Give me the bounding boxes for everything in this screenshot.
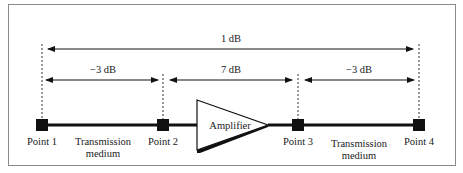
overall-gain-label: 1 dB [221,33,241,44]
segment-2-loss-label: −3 dB [346,64,372,75]
point-3-label: Point 3 [283,136,313,147]
point-4-marker [413,119,425,131]
point-3-marker [292,119,304,131]
amplifier-label: Amplifier [209,120,251,131]
medium-1-label-line2: medium [86,148,120,159]
medium-1-label-line1: Transmission [75,136,132,147]
transmission-diagram: 1 dB −3 dB 7 dB −3 dB Amplifier Point 1 … [0,0,463,173]
amplifier-gain-label: 7 dB [221,64,241,75]
point-2-label: Point 2 [148,136,178,147]
medium-2-label-line2: medium [342,150,376,161]
segment-1-loss-label: −3 dB [90,64,116,75]
point-2-marker [157,119,169,131]
point-1-label: Point 1 [27,136,57,147]
point-4-label: Point 4 [404,136,435,147]
amplifier: Amplifier [197,100,268,153]
medium-2-label-line1: Transmission [331,138,388,149]
point-1-marker [36,119,48,131]
